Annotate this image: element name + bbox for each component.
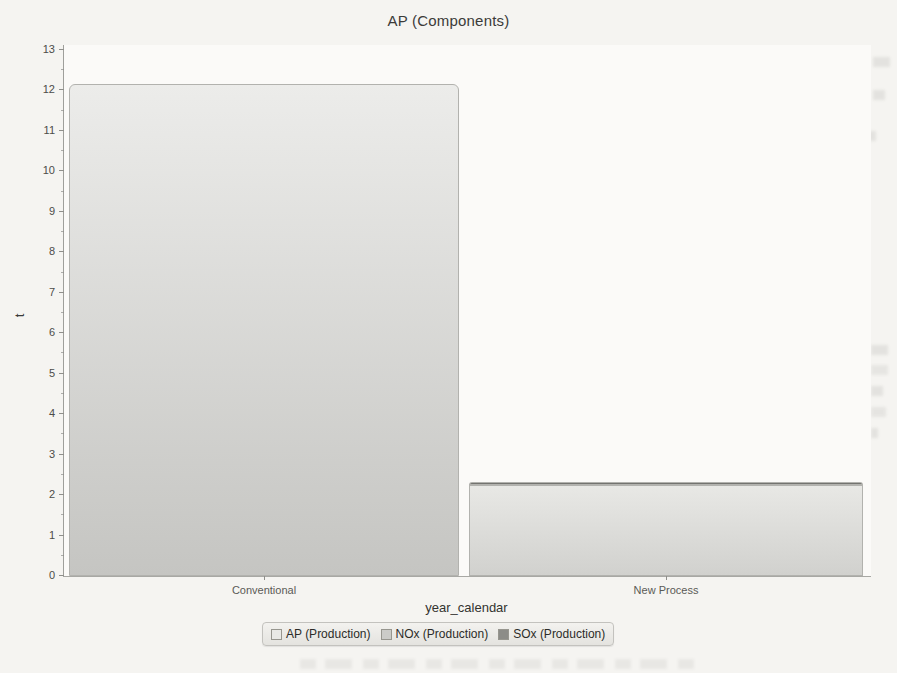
bar-segment	[469, 485, 863, 576]
y-tick-label: 4	[49, 407, 55, 419]
legend-label: AP (Production)	[286, 627, 371, 641]
y-tick-label: 12	[43, 83, 55, 95]
x-category-label: Conventional	[232, 584, 296, 596]
x-axis-title: year_calendar	[63, 600, 870, 615]
legend-item: SOx (Production)	[498, 627, 605, 641]
y-tick-label: 2	[49, 488, 55, 500]
bleed-text-artifact	[300, 659, 700, 669]
x-tick	[264, 576, 265, 580]
y-tick-label: 13	[43, 43, 55, 55]
y-tick-label: 11	[44, 124, 55, 136]
plot-area: 012345678910111213 ConventionalNew Proce…	[63, 45, 871, 577]
legend-swatch-icon	[498, 629, 509, 640]
bar-segment	[469, 482, 863, 485]
y-tick-label: 1	[49, 529, 55, 541]
y-tick-label: 5	[49, 367, 55, 379]
y-tick-label: 6	[49, 326, 55, 338]
chart-title: AP (Components)	[0, 12, 897, 29]
chart-legend: AP (Production)NOx (Production)SOx (Prod…	[262, 622, 614, 646]
x-category-label: New Process	[634, 584, 699, 596]
y-tick-label: 8	[49, 245, 55, 257]
x-tick	[666, 576, 667, 580]
y-axis-title: t	[12, 314, 27, 318]
legend-swatch-icon	[381, 629, 392, 640]
bar-segment	[69, 84, 459, 576]
legend-item: AP (Production)	[271, 627, 371, 641]
y-tick-label: 9	[49, 205, 55, 217]
scanned-chart-page: AP (Components) 012345678910111213 Conve…	[0, 0, 897, 673]
y-tick-label: 7	[49, 286, 55, 298]
legend-label: SOx (Production)	[513, 627, 605, 641]
y-tick-label: 10	[43, 164, 55, 176]
legend-label: NOx (Production)	[396, 627, 489, 641]
y-tick-label: 0	[49, 569, 55, 581]
legend-swatch-icon	[271, 629, 282, 640]
y-tick-label: 3	[49, 448, 55, 460]
legend-item: NOx (Production)	[381, 627, 489, 641]
